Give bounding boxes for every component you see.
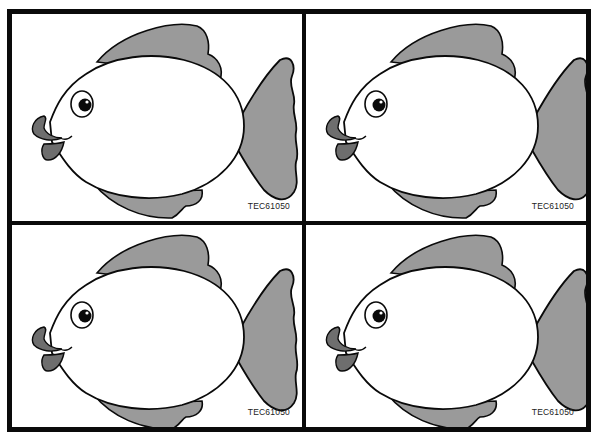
fish-illustration xyxy=(306,14,586,221)
fish-panel: TEC61050 xyxy=(306,14,586,221)
fish-illustration xyxy=(306,225,586,427)
fish-illustration xyxy=(12,225,302,427)
product-code: TEC61050 xyxy=(248,201,290,211)
fish-panel: TEC61050 xyxy=(12,14,302,221)
product-code: TEC61050 xyxy=(248,407,290,417)
product-code: TEC61050 xyxy=(532,201,574,211)
product-code: TEC61050 xyxy=(532,407,574,417)
coloring-sheet: TEC61050 TEC61050 TEC61050 TEC61050 xyxy=(7,9,591,432)
fish-illustration xyxy=(12,14,302,221)
fish-panel: TEC61050 xyxy=(306,225,586,427)
horizontal-divider xyxy=(12,221,586,225)
fish-panel: TEC61050 xyxy=(12,225,302,427)
